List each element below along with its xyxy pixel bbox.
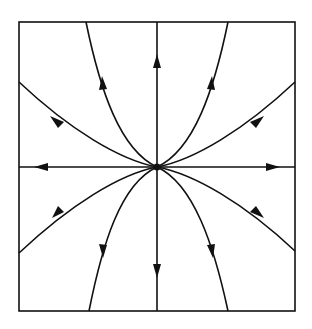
arrow-right-icon [266,163,280,171]
arrow-up-icon [153,54,161,68]
trajectory-lower-left-steep [89,167,157,311]
arrow-left-icon [34,163,48,171]
trajectory-lower-right-steep [157,167,228,311]
trajectory-upper-right-shallow [157,82,295,167]
phase-portrait [0,0,312,329]
arrow-lower-left-steep-icon [99,244,107,258]
equilibrium-point [154,164,161,171]
trajectory-upper-left-steep [86,22,157,167]
trajectory-upper-right-steep [157,22,228,167]
arrow-lower-right-shallow-icon [250,206,264,218]
arrow-down-icon [153,264,161,278]
trajectory-lower-right-shallow [157,167,295,251]
trajectory-lower-left-shallow [19,167,157,253]
trajectory-upper-left-shallow [19,82,157,167]
